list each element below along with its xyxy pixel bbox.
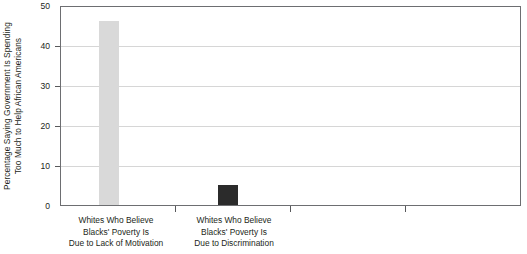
y-tick-label-40: 40 [40,42,50,51]
plot-area [60,6,521,206]
y-axis-title-line-2: Too Much to Help African Americans [13,22,24,190]
x-category-label-motivation-line-1: Whites Who Believe [56,215,176,227]
x-category-label-motivation: Whites Who Believe Blacks' Poverty Is Du… [56,215,176,250]
x-category-label-motivation-line-3: Due to Lack of Motivation [56,238,176,250]
y-axis-tick-labels: 50 40 30 20 10 0 [24,0,50,212]
x-category-label-discrimination-line-2: Blacks' Poverty Is [175,227,293,239]
x-category-label-discrimination-line-1: Whites Who Believe [175,215,293,227]
y-tick-label-30: 30 [40,82,50,91]
bar-discrimination [218,185,238,205]
gridline-10 [61,166,520,167]
y-tick-label-20: 20 [40,122,50,131]
x-category-label-discrimination-line-3: Due to Discrimination [175,238,293,250]
x-category-label-motivation-line-2: Blacks' Poverty Is [56,227,176,239]
bar-motivation [99,21,119,205]
y-tick-label-50: 50 [40,2,50,11]
y-tick-label-0: 0 [45,202,50,211]
gridline-40 [61,46,520,47]
x-tick-separator-3 [405,206,406,212]
y-axis-title-line-1: Percentage Saying Government Is Spending [2,22,13,190]
x-tick-separator-1 [175,206,176,212]
y-tick-label-10: 10 [40,162,50,171]
x-category-label-discrimination: Whites Who Believe Blacks' Poverty Is Du… [175,215,293,250]
y-axis-title: Percentage Saying Government Is Spending… [0,0,26,212]
x-tick-separator-2 [290,206,291,212]
bar-chart-figure: Percentage Saying Government Is Spending… [0,0,527,254]
gridline-30 [61,86,520,87]
gridline-20 [61,126,520,127]
